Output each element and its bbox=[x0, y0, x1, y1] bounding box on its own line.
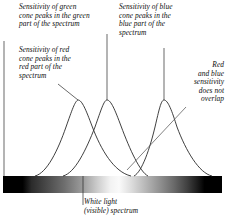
red-cone-sensitivity-curve bbox=[35, 100, 131, 176]
green-cone-annotation: Sensitivity of green cone peaks in the g… bbox=[19, 3, 105, 29]
cone-sensitivity-figure: Sensitivity of green cone peaks in the g… bbox=[0, 0, 226, 219]
white-light-spectrum-caption: White light (visible) spectrum bbox=[84, 198, 204, 215]
no-overlap-leader-line bbox=[127, 107, 186, 170]
blue-cone-sensitivity-curve bbox=[134, 100, 212, 176]
red-cone-annotation: Sensitivity of red cone peaks in the red… bbox=[19, 46, 99, 80]
no-overlap-annotation: Red and blue sensitivity does not overla… bbox=[174, 61, 224, 104]
blue-cone-annotation: Sensitivity of blue cone peaks in the bl… bbox=[119, 3, 203, 37]
green-cone-sensitivity-curve bbox=[63, 100, 148, 176]
red-cone-label-hook bbox=[58, 84, 78, 100]
